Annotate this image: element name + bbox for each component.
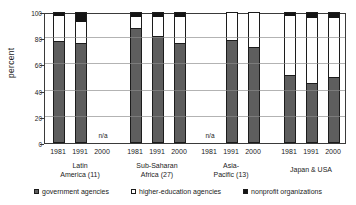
plot-area: n/an/a xyxy=(44,13,346,144)
segment-government xyxy=(54,42,64,142)
group-label: Japan & USA xyxy=(290,165,332,174)
y-tick-mark xyxy=(40,92,44,93)
gridline xyxy=(45,116,345,117)
y-tick-mark xyxy=(40,118,44,119)
legend: government agencieshigher-education agen… xyxy=(0,188,356,195)
legend-item: nonprofit organizations xyxy=(243,188,322,195)
x-tick-label: 1981 xyxy=(50,148,66,155)
x-tick-label: 2000 xyxy=(325,148,341,155)
y-tick-mark xyxy=(40,144,44,145)
y-tick-mark xyxy=(40,39,44,40)
segment-government xyxy=(227,41,237,143)
segment-higher-education xyxy=(329,18,339,78)
legend-label: higher-education agencies xyxy=(139,188,221,195)
segment-higher-education xyxy=(227,13,237,41)
legend-item: government agencies xyxy=(34,188,109,195)
group-label: LatinAmerica (11) xyxy=(60,161,100,180)
segment-higher-education xyxy=(249,13,259,48)
y-tick-label: 40 xyxy=(22,88,42,95)
x-tick-label: 1991 xyxy=(149,148,165,155)
na-label: n/a xyxy=(205,132,214,139)
x-tick-label: 2000 xyxy=(245,148,261,155)
segment-higher-education xyxy=(153,17,163,37)
gridline xyxy=(45,37,345,38)
legend-swatch-icon xyxy=(34,189,39,194)
stacked-bar xyxy=(328,12,340,143)
x-tick-label: 1981 xyxy=(201,148,217,155)
segment-higher-education xyxy=(175,17,185,45)
legend-item: higher-education agencies xyxy=(131,188,221,195)
stacked-bar xyxy=(174,12,186,143)
segment-government xyxy=(153,37,163,142)
segment-nonprofit xyxy=(76,13,86,22)
legend-label: nonprofit organizations xyxy=(251,188,322,195)
y-tick-mark xyxy=(40,65,44,66)
stacked-bar xyxy=(75,12,87,143)
gridline xyxy=(45,90,345,91)
segment-government xyxy=(175,44,185,142)
segment-higher-education xyxy=(54,16,64,42)
stacked-bar xyxy=(248,12,260,143)
y-tick-label: 20 xyxy=(22,114,42,121)
x-tick-label: 1981 xyxy=(127,148,143,155)
y-tick-label: 0 xyxy=(22,141,42,148)
group-label: Sub-SaharanAfrica (27) xyxy=(136,161,177,180)
legend-swatch-icon xyxy=(131,189,136,194)
segment-government xyxy=(131,29,141,142)
segment-government xyxy=(307,84,317,142)
gridline xyxy=(45,63,345,64)
x-tick-label: 2000 xyxy=(94,148,110,155)
segment-higher-education xyxy=(285,16,295,76)
y-axis-label: percent xyxy=(6,48,16,78)
legend-swatch-icon xyxy=(243,189,248,194)
segment-government xyxy=(285,76,295,142)
stacked-bar xyxy=(306,12,318,143)
x-tick-label: 1991 xyxy=(223,148,239,155)
stacked-bar xyxy=(53,12,65,143)
stacked-bar xyxy=(226,12,238,143)
segment-higher-education xyxy=(131,17,141,29)
na-label: n/a xyxy=(98,132,107,139)
stacked-bar-chart: percent n/an/a 020406080100 198119912000… xyxy=(0,0,356,205)
y-tick-label: 80 xyxy=(22,36,42,43)
segment-government xyxy=(249,48,259,142)
legend-label: government agencies xyxy=(42,188,109,195)
stacked-bar xyxy=(152,12,164,143)
stacked-bar xyxy=(284,12,296,143)
x-tick-label: 1981 xyxy=(281,148,297,155)
y-tick-label: 60 xyxy=(22,62,42,69)
y-tick-label: 100 xyxy=(22,10,42,17)
group-label: Asia-Pacific (13) xyxy=(213,161,248,180)
x-tick-label: 2000 xyxy=(171,148,187,155)
y-tick-mark xyxy=(40,13,44,14)
segment-government xyxy=(329,78,339,142)
x-tick-label: 1991 xyxy=(72,148,88,155)
segment-higher-education xyxy=(76,22,86,44)
segment-higher-education xyxy=(307,18,317,84)
x-tick-label: 1991 xyxy=(303,148,319,155)
segment-government xyxy=(76,44,86,142)
stacked-bar xyxy=(130,12,142,143)
